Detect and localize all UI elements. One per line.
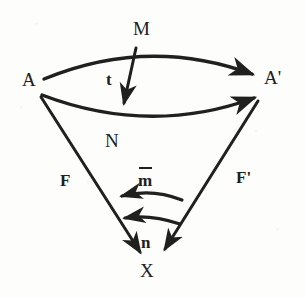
arrow-F — [41, 97, 140, 252]
morphism-label-F-prime: F' — [236, 169, 251, 186]
diagram-canvas: A A' M N X t F F' m n — [0, 0, 305, 298]
morphism-label-m-bar: m — [138, 172, 152, 189]
arrow-n — [125, 217, 180, 224]
morphism-label-F: F — [60, 172, 70, 189]
object-label-A-prime: A' — [264, 68, 281, 87]
commutative-diagram-graphic — [0, 0, 305, 298]
arrow-N-arc — [42, 95, 254, 116]
object-label-M: M — [133, 19, 150, 38]
morphism-label-t: t — [106, 71, 112, 88]
object-label-N: N — [105, 131, 119, 150]
object-label-A: A — [22, 70, 36, 89]
morphism-label-n: n — [141, 234, 150, 251]
object-label-X: X — [140, 261, 154, 280]
arrow-M-arc — [44, 56, 252, 79]
m-bar-glyph: m — [138, 172, 152, 189]
arrow-m-bar — [122, 193, 182, 200]
